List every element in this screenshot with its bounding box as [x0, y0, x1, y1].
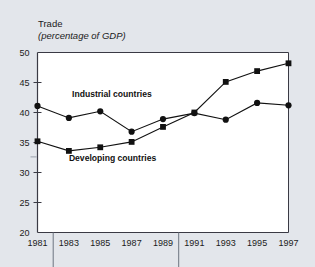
- x-tick-label-1997: 1997: [278, 238, 298, 248]
- x-tick-label-1983: 1983: [59, 238, 79, 248]
- data-point-industrial-1995: [254, 100, 260, 106]
- data-point-developing-1991: [191, 110, 197, 116]
- data-point-developing-1995: [254, 68, 260, 74]
- data-point-developing-1989: [160, 124, 166, 130]
- y-tick-label-35: 35: [19, 138, 29, 148]
- data-point-developing-1993: [223, 79, 229, 85]
- y-tick-label-40: 40: [19, 108, 29, 118]
- chart-svg: 2025303540455019811983198519871989199119…: [0, 0, 315, 267]
- x-tick-label-1995: 1995: [247, 238, 267, 248]
- data-point-industrial-1985: [97, 108, 103, 114]
- x-tick-label-1987: 1987: [122, 238, 142, 248]
- data-point-developing-1981: [35, 138, 41, 144]
- data-point-developing-1987: [129, 139, 135, 145]
- y-tick-label-45: 45: [19, 78, 29, 88]
- data-point-developing-1997: [286, 60, 292, 66]
- x-tick-label-1991: 1991: [184, 238, 204, 248]
- x-tick-label-1989: 1989: [153, 238, 173, 248]
- x-tick-label-1993: 1993: [216, 238, 236, 248]
- data-point-industrial-1981: [34, 103, 40, 109]
- data-point-industrial-1983: [66, 115, 72, 121]
- x-tick-label-1985: 1985: [90, 238, 110, 248]
- data-point-industrial-1993: [223, 117, 229, 123]
- series-annotation-developing: Developing countries: [69, 153, 157, 163]
- plot-background: [38, 53, 289, 233]
- y-tick-label-20: 20: [19, 228, 29, 238]
- x-tick-label-1981: 1981: [27, 238, 47, 248]
- y-tick-label-50: 50: [19, 48, 29, 58]
- data-point-industrial-1989: [160, 116, 166, 122]
- data-point-developing-1985: [97, 144, 103, 150]
- data-point-industrial-1987: [129, 129, 135, 135]
- chart-figure: Trade (percentage of GDP) 20253035404550…: [0, 0, 315, 267]
- data-point-industrial-1997: [285, 102, 291, 108]
- series-annotation-industrial: Industrial countries: [72, 89, 152, 99]
- y-tick-label-30: 30: [19, 168, 29, 178]
- y-tick-label-25: 25: [19, 198, 29, 208]
